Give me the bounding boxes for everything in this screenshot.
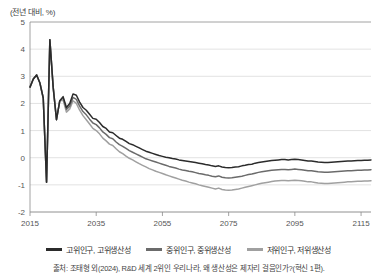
y-tick-label: -1 (18, 181, 26, 190)
x-tick-label: 2095 (286, 219, 304, 228)
legend-swatch-low-icon (247, 248, 263, 251)
x-tick-label: 2035 (87, 219, 105, 228)
line-chart-svg: -2-1012345201520352055207520952115 (0, 16, 377, 228)
plot-area: -2-1012345201520352055207520952115 (0, 16, 377, 228)
legend-label-mid: 중위인구, 중위생산성 (166, 244, 230, 255)
legend-item-mid[interactable]: 중위인구, 중위생산성 (146, 244, 230, 255)
y-tick-label: 2 (21, 99, 26, 108)
legend-swatch-high-icon (46, 248, 62, 251)
y-tick-label: 1 (21, 127, 26, 136)
y-tick-label: 0 (21, 154, 26, 163)
x-tick-label: 2015 (21, 219, 39, 228)
x-tick-label: 2115 (352, 219, 370, 228)
y-tick-label: 5 (21, 18, 26, 27)
y-tick-label: -2 (18, 208, 26, 217)
legend-item-low[interactable]: 저위인구, 저위생산성 (247, 244, 331, 255)
legend-swatch-mid-icon (146, 248, 162, 251)
source-note: 출처: 조태형 외(2024), R&D 세계 2위인 우리나라, 왜 생산성은… (0, 262, 377, 273)
x-tick-label: 2075 (220, 219, 238, 228)
legend-item-high[interactable]: 고위인구, 고위생산성 (46, 244, 130, 255)
chart-figure: (전년 대비, %) -2-10123452015203520552075209… (0, 0, 377, 277)
series-line (30, 40, 371, 191)
series-line (30, 40, 371, 183)
chart-legend: 고위인구, 고위생산성 중위인구, 중위생산성 저위인구, 저위생산성 (0, 244, 377, 255)
series-line (30, 40, 371, 183)
y-tick-label: 3 (21, 72, 26, 81)
legend-label-high: 고위인구, 고위생산성 (66, 244, 130, 255)
x-tick-label: 2055 (154, 219, 172, 228)
legend-label-low: 저위인구, 저위생산성 (267, 244, 331, 255)
y-tick-label: 4 (21, 45, 26, 54)
